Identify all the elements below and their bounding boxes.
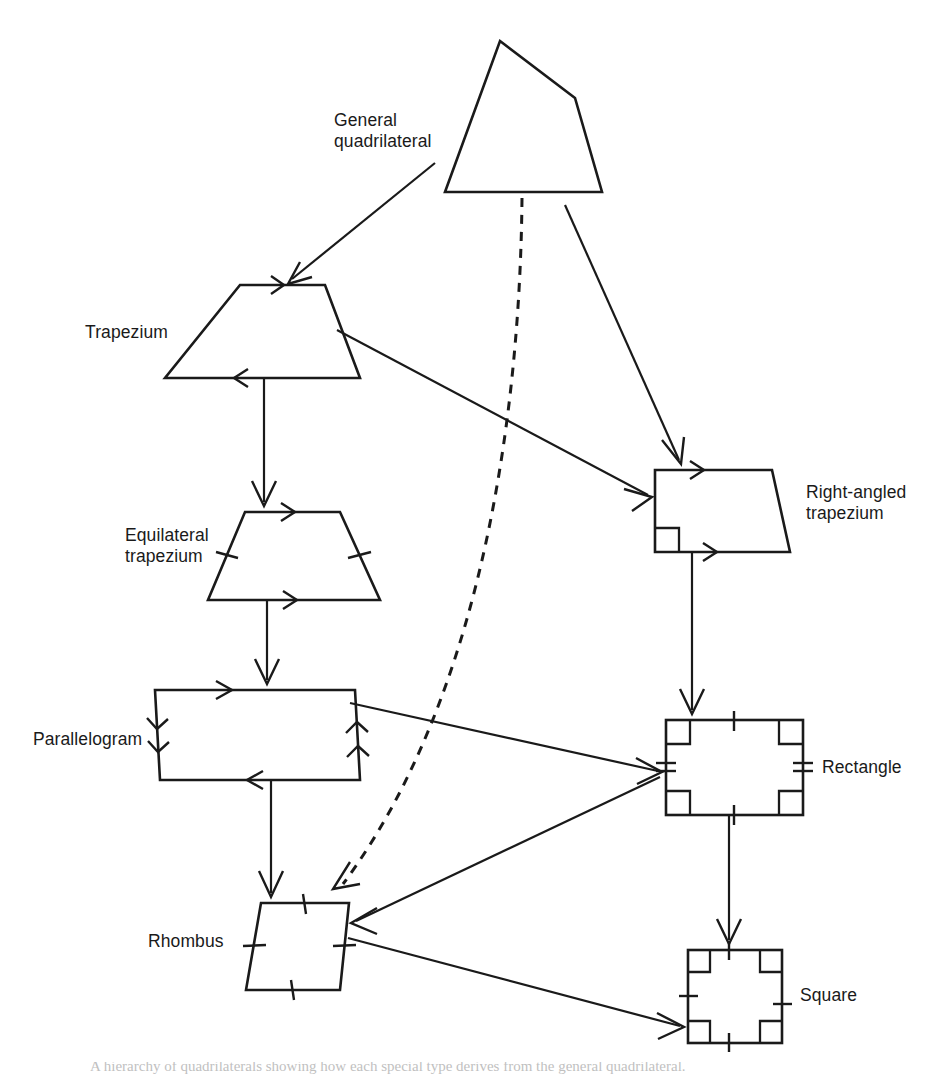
square-right-angle-mark-tr [760,950,782,972]
rectangle-right-angle-mark-bl [666,791,690,815]
edge-line [292,163,435,279]
edge-line [565,205,679,460]
label-rectangle: Rectangle [822,757,902,778]
arrowhead-icon [657,1013,684,1039]
rhombus-bottom-equal-tick [291,980,294,1000]
node-general-quadrilateral [445,41,602,192]
rectangle-right-angle-mark-tl [666,720,690,744]
rectangle-right-angle-mark-br [779,791,803,815]
rhombus-left-equal-tick [243,945,266,946]
arrowhead-icon [624,489,652,511]
label-right-angled-trapezium: Right-angled trapezium [806,482,906,525]
edge-rectangle-to-rhombus [351,777,660,934]
node-rhombus [243,894,356,1000]
edge-line [350,703,658,771]
figure-canvas: General quadrilateral Trapezium Equilate… [0,0,940,1076]
node-right-angled-trapezium [655,461,790,561]
square-shape [688,950,782,1043]
arrowhead-icon [662,437,684,464]
edge-rhombus-to-square [348,938,684,1039]
edge-trapezium-to-right-angled-trapezium [337,330,652,511]
edge-parallelogram-to-rectangle [350,703,662,784]
edge-rectangle-to-square [717,815,741,944]
edge-trapezium-to-equilateral-trapezium [252,378,276,506]
figure-caption: A hierarchy of quadrilaterals showing ho… [90,1062,686,1075]
edge-dashed-line [343,198,522,884]
right-angled-trapezium-shape [655,470,790,552]
label-square: Square [800,985,857,1006]
edge-right-angled-trapezium-to-rectangle [680,552,704,714]
rhombus-right-equal-tick [333,945,356,946]
label-rhombus: Rhombus [148,931,224,952]
square-right-angle-mark-br [760,1021,782,1043]
node-square [679,941,792,1052]
edge-line [356,777,660,921]
edge-general-quadrilateral-to-rhombus [333,198,522,889]
edge-line [337,330,648,495]
edge-line [348,938,680,1026]
node-rectangle [656,711,813,825]
rhombus-top-equal-tick [303,894,306,914]
node-trapezium [165,276,360,387]
node-equilateral-trapezium [208,503,380,609]
label-equilateral-trapezium: Equilateral trapezium [125,525,209,568]
label-general-quadrilateral: General quadrilateral [334,110,432,153]
edge-general-quadrilateral-to-right-angled-trapezium [565,205,684,464]
figure-caption-strip: A hierarchy of quadrilaterals showing ho… [0,1062,940,1076]
node-parallelogram [147,681,369,789]
right-angled-trapezium-right-angle-mark [655,528,679,552]
edge-parallelogram-to-rhombus [259,780,283,897]
parallelogram-shape [155,690,360,780]
square-right-angle-mark-bl [688,1021,710,1043]
edge-general-quadrilateral-to-trapezium [288,163,435,284]
edge-equilateral-trapezium-to-parallelogram [255,600,279,684]
rectangle-shape [666,720,803,815]
label-trapezium: Trapezium [85,322,168,343]
trapezium-shape [165,285,360,378]
rectangle-right-angle-mark-tr [779,720,803,744]
label-parallelogram: Parallelogram [33,729,142,750]
square-right-angle-mark-tl [688,950,710,972]
general-quadrilateral-shape [445,41,602,192]
